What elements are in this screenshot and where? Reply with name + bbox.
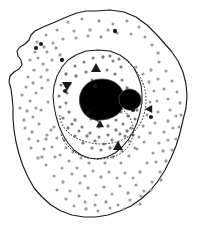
cytoplasm-granule — [178, 101, 181, 104]
cytoplasm-granule — [31, 115, 34, 118]
cytoplasm-granule — [52, 174, 55, 177]
cytoplasm-granule — [145, 161, 148, 164]
nucleoplasm-granule — [84, 70, 87, 73]
cytoplasm-granule — [72, 204, 75, 207]
cytoplasm-granule — [36, 139, 39, 142]
cytoplasm-granule — [22, 118, 25, 121]
dark-granule — [93, 84, 97, 88]
cytoplasm-granule — [153, 121, 156, 124]
cytoplasm-granule — [156, 77, 159, 80]
cytoplasm-granule — [93, 203, 96, 206]
nucleoplasm-granule — [125, 129, 128, 132]
cytoplasm-granule — [137, 135, 140, 138]
nucleoplasm-granule — [106, 124, 109, 127]
cytoplasm-granule — [134, 183, 137, 186]
cytoplasm-granule — [99, 175, 102, 178]
cytoplasm-granule — [107, 170, 110, 173]
cytoplasm-granule — [126, 191, 129, 194]
cytoplasm-granule — [29, 146, 32, 149]
cytoplasm-granule — [168, 108, 171, 111]
cytoplasm-granule — [123, 171, 126, 174]
cytoplasm-granule — [58, 53, 61, 56]
cytoplasm-granule — [161, 149, 164, 152]
cytoplasm-granule — [53, 126, 56, 129]
cytoplasm-granule — [50, 145, 53, 148]
cytoplasm-granule — [45, 68, 48, 71]
cytoplasm-granule — [44, 137, 47, 140]
cytoplasm-granule — [102, 185, 105, 188]
cytoplasm-granule — [24, 127, 27, 130]
cell-diagram-figure — [0, 0, 207, 235]
cytoplasm-granule — [156, 51, 159, 54]
cytoplasm-granule — [67, 159, 70, 162]
cytoplasm-granule — [59, 154, 62, 157]
nucleoplasm-granule — [77, 129, 80, 132]
cytoplasm-granule — [61, 167, 64, 170]
cytoplasm-granule — [84, 207, 87, 210]
cytoplasm-granule — [157, 141, 160, 144]
dark-granule — [39, 42, 43, 46]
nucleoplasm-granule — [114, 118, 117, 121]
cytoplasm-granule — [178, 126, 181, 129]
nucleoplasm-granule — [91, 56, 94, 59]
nucleoplasm-granule — [111, 59, 114, 62]
dark-granule — [149, 115, 153, 119]
cytoplasm-granule — [40, 86, 43, 89]
cytoplasm-granule — [33, 50, 36, 53]
cytoplasm-granule — [158, 170, 161, 173]
nucleoplasm-granule — [85, 134, 88, 137]
cytoplasm-granule — [170, 148, 173, 151]
cytoplasm-granule — [152, 89, 155, 92]
cytoplasm-granule — [72, 29, 75, 32]
cytoplasm-granule — [162, 87, 165, 90]
cytoplasm-granule — [31, 81, 34, 84]
cytoplasm-granule — [27, 137, 30, 140]
cytoplasm-granule — [175, 90, 178, 93]
nucleoplasm-granule — [61, 116, 64, 119]
cytoplasm-granule — [152, 152, 155, 155]
cytoplasm-granule — [35, 40, 38, 43]
cytoplasm-granule — [167, 98, 170, 101]
cytoplasm-granule — [149, 101, 152, 104]
cytoplasm-granule — [47, 101, 50, 104]
cytoplasm-granule — [118, 184, 121, 187]
cytoplasm-granule — [28, 99, 31, 102]
cytoplasm-granule — [166, 119, 169, 122]
cytoplasm-granule — [39, 108, 42, 111]
nucleoplasm-granule — [111, 139, 114, 142]
cytoplasm-granule — [37, 122, 40, 125]
cytoplasm-granule — [119, 161, 122, 164]
cytoplasm-granule — [76, 167, 79, 170]
cytoplasm-granule — [140, 195, 143, 198]
cytoplasm-granule — [116, 203, 119, 206]
cytoplasm-granule — [151, 181, 154, 184]
nucleoplasm-granule — [66, 126, 69, 129]
cytoplasm-granule — [24, 85, 27, 88]
cytoplasm-granule — [35, 107, 38, 110]
cytoplasm-granule — [144, 36, 147, 39]
nucleoplasm-granule — [106, 133, 109, 136]
cytoplasm-granule — [104, 200, 107, 203]
nucleoplasm-granule — [121, 122, 124, 125]
cytoplasm-granule — [111, 22, 114, 25]
nucleoplasm-granule — [120, 78, 123, 81]
cytoplasm-granule — [129, 32, 132, 35]
nucleoplasm-granule — [74, 74, 77, 77]
cytoplasm-granule — [77, 194, 80, 197]
cytoplasm-granule — [116, 177, 119, 180]
cytoplasm-granule — [55, 188, 58, 191]
cytoplasm-granule — [87, 161, 90, 164]
cytoplasm-granule — [165, 70, 168, 73]
cytoplasm-granule — [145, 113, 148, 116]
cytoplasm-granule — [27, 76, 30, 79]
satellite-body-shape — [119, 89, 141, 110]
cytoplasm-granule — [157, 60, 160, 63]
cytoplasm-granule — [18, 106, 21, 109]
cytoplasm-granule — [86, 186, 89, 189]
cytoplasm-granule — [39, 75, 42, 78]
cytoplasm-granule — [61, 180, 64, 183]
cytoplasm-granule — [69, 190, 72, 193]
cytoplasm-granule — [37, 57, 40, 60]
nucleoplasm-granule — [108, 54, 111, 57]
cytoplasm-granule — [154, 160, 157, 163]
